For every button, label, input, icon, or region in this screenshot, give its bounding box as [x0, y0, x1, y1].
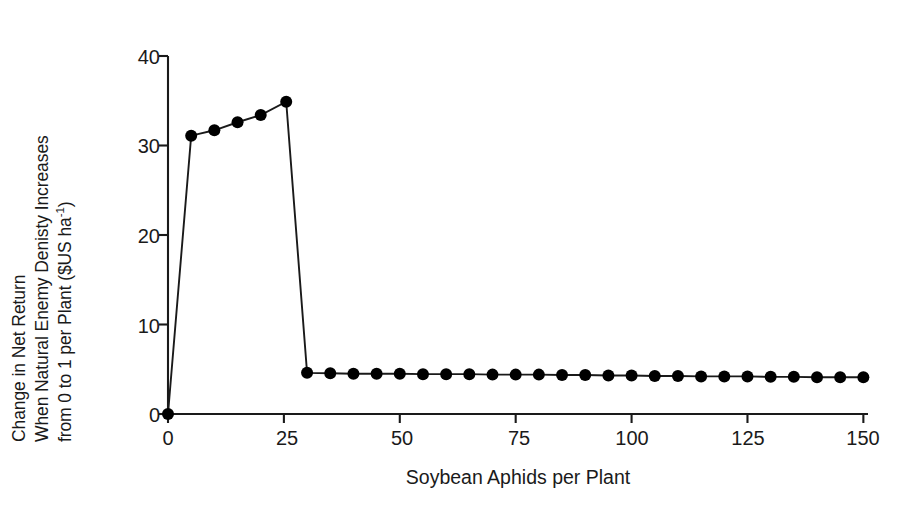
data-point-marker — [602, 370, 614, 382]
data-point-marker — [672, 370, 684, 382]
data-point-marker — [579, 369, 591, 381]
data-point-marker — [556, 369, 568, 381]
axis-spines — [168, 56, 868, 414]
y-axis-ticks — [159, 56, 168, 414]
data-point-marker — [487, 369, 499, 381]
data-point-marker — [788, 371, 800, 383]
data-point-marker — [417, 368, 429, 380]
data-point-marker — [208, 124, 220, 136]
plot-area — [0, 0, 905, 521]
data-point-marker — [718, 370, 730, 382]
x-axis-label: Soybean Aphids per Plant — [168, 466, 868, 489]
data-point-marker — [510, 369, 522, 381]
data-point-marker — [301, 367, 313, 379]
data-markers — [162, 96, 869, 420]
data-point-marker — [626, 370, 638, 382]
chart-figure: Change in Net Return When Natural Enemy … — [0, 0, 905, 521]
data-point-marker — [162, 408, 174, 420]
data-point-marker — [185, 130, 197, 142]
data-point-marker — [463, 368, 475, 380]
data-point-marker — [857, 371, 869, 383]
data-point-marker — [347, 368, 359, 380]
data-point-marker — [834, 371, 846, 383]
data-point-marker — [695, 370, 707, 382]
data-point-marker — [394, 368, 406, 380]
data-point-marker — [324, 367, 336, 379]
data-point-marker — [533, 369, 545, 381]
data-point-marker — [741, 370, 753, 382]
x-axis-ticks — [168, 414, 863, 423]
data-point-marker — [371, 368, 383, 380]
data-point-marker — [440, 368, 452, 380]
data-point-marker — [232, 116, 244, 128]
data-point-marker — [811, 371, 823, 383]
data-point-marker — [255, 109, 267, 121]
data-point-marker — [765, 371, 777, 383]
data-point-marker — [649, 370, 661, 382]
data-line — [168, 102, 863, 414]
data-point-marker — [280, 96, 292, 108]
